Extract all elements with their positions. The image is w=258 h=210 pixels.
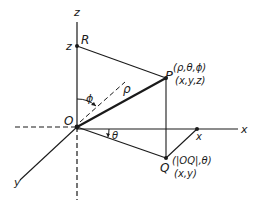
line-Q-x xyxy=(166,129,197,158)
phi-label: ϕ xyxy=(86,92,93,105)
R-label: R xyxy=(81,33,89,47)
origin-point xyxy=(75,125,80,130)
theta-arrowhead xyxy=(106,133,110,137)
point-Q xyxy=(164,156,168,160)
line-O-Q xyxy=(77,127,166,158)
Q-label: Q xyxy=(160,161,169,175)
line-R-P xyxy=(77,46,166,78)
rho-label: ρ xyxy=(123,82,131,96)
x-axis-label: x xyxy=(240,123,248,136)
R-tick-label: z xyxy=(65,40,72,53)
P-label: P xyxy=(165,68,173,83)
z-axis-label: z xyxy=(73,6,80,19)
y-axis-label: y xyxy=(13,176,21,189)
theta-label: θ xyxy=(112,130,118,141)
origin-label: O xyxy=(64,114,73,128)
P-cartesian-label: (x,y,z) xyxy=(175,75,205,86)
point-R xyxy=(75,44,79,48)
Q-cartesian-label: (x,y) xyxy=(174,168,197,179)
spherical-coordinates-diagram: z z R P (ρ,θ,ϕ) (x,y,z) ρ ϕ O θ x x Q (|… xyxy=(0,0,258,210)
x-tick-label: x xyxy=(195,131,202,142)
P-spherical-label: (ρ,θ,ϕ) xyxy=(173,62,206,73)
y-axis xyxy=(20,127,77,180)
Q-polar-label: (|OQ|,θ) xyxy=(172,155,212,167)
